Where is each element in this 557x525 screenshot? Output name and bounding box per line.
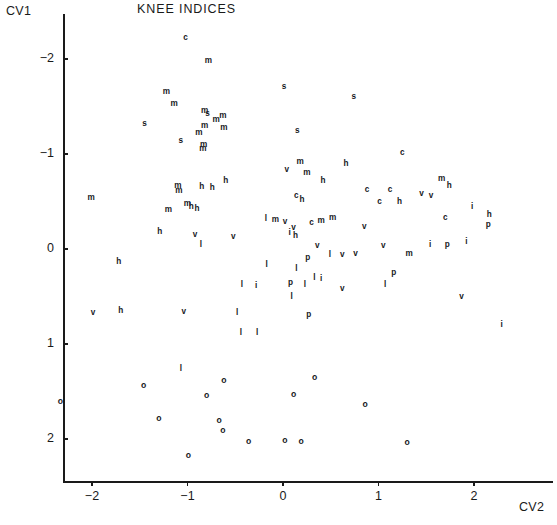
y-tick-mark	[63, 58, 68, 59]
data-point-p: p	[443, 241, 452, 249]
data-point-h: h	[485, 211, 494, 219]
data-point-m: m	[405, 250, 414, 258]
data-point-m: m	[87, 194, 96, 202]
data-point-o: o	[202, 391, 211, 399]
data-point-v: v	[282, 166, 291, 174]
data-point-c: c	[385, 186, 394, 194]
x-tick-mark	[378, 481, 379, 486]
data-point-v: v	[417, 190, 426, 198]
data-point-p: p	[303, 254, 312, 262]
data-point-i: i	[317, 275, 326, 283]
data-point-h: h	[155, 228, 164, 236]
data-point-s: s	[176, 137, 185, 145]
data-point-m: m	[328, 214, 337, 222]
x-tick-mark	[187, 481, 188, 486]
data-point-l: l	[381, 281, 390, 289]
data-point-l: l	[287, 293, 296, 301]
data-point-m: m	[162, 88, 171, 96]
data-point-o: o	[244, 437, 253, 445]
data-point-h: h	[291, 232, 300, 240]
data-point-v: v	[179, 308, 188, 316]
data-point-c: c	[441, 214, 450, 222]
x-tick-label: 2	[461, 489, 487, 503]
x-tick-mark	[91, 481, 92, 486]
data-point-c: c	[181, 34, 190, 42]
data-point-s: s	[140, 120, 149, 128]
x-tick-mark	[473, 481, 474, 486]
data-point-m: m	[198, 145, 207, 153]
data-point-m: m	[194, 129, 203, 137]
data-point-v: v	[457, 293, 466, 301]
data-point-h: h	[395, 198, 404, 206]
data-point-o: o	[139, 381, 148, 389]
data-point-v: v	[191, 231, 200, 239]
data-point-o: o	[361, 400, 370, 408]
data-point-h: h	[114, 258, 123, 266]
data-point-v: v	[338, 285, 347, 293]
data-point-h: h	[197, 183, 206, 191]
data-point-o: o	[184, 451, 193, 459]
data-point-v: v	[360, 223, 369, 231]
data-point-h: h	[221, 177, 230, 185]
data-point-o: o	[280, 436, 289, 444]
data-point-s: s	[293, 127, 302, 135]
data-point-l: l	[237, 281, 246, 289]
data-point-o: o	[215, 416, 224, 424]
data-point-h: h	[342, 160, 351, 168]
y-tick-label: 0	[28, 241, 54, 255]
y-tick-label: 2	[28, 431, 54, 445]
page-title: KNEE INDICES	[137, 2, 236, 16]
data-point-v: v	[379, 242, 388, 250]
y-tick-mark	[63, 248, 68, 249]
data-point-s: s	[279, 83, 288, 91]
data-point-c: c	[307, 219, 316, 227]
data-point-o: o	[154, 414, 163, 422]
data-point-o: o	[218, 426, 227, 434]
y-tick-mark	[63, 153, 68, 154]
data-point-v: v	[427, 192, 436, 200]
data-point-m: m	[204, 57, 213, 65]
data-point-h: h	[208, 184, 217, 192]
data-point-m: m	[271, 216, 280, 224]
data-point-l: l	[292, 265, 301, 273]
x-tick-mark	[282, 481, 283, 486]
data-point-h: h	[116, 307, 125, 315]
scatter-plot: KNEE INDICES CV1 CV2 −2−1012−2−1012 cmsm…	[0, 0, 557, 525]
data-point-h: h	[319, 177, 328, 185]
data-point-o: o	[219, 376, 228, 384]
data-point-p: p	[484, 221, 493, 229]
data-point-h: h	[298, 196, 307, 204]
data-point-m: m	[170, 100, 179, 108]
x-tick-label: 0	[270, 489, 296, 503]
y-tick-mark	[63, 438, 68, 439]
data-point-l: l	[196, 241, 205, 249]
data-point-o: o	[297, 437, 306, 445]
data-point-v: v	[313, 242, 322, 250]
data-point-p: p	[304, 311, 313, 319]
data-point-l: l	[236, 329, 245, 337]
y-tick-label: 1	[28, 336, 54, 350]
data-point-i: i	[426, 241, 435, 249]
data-point-l: l	[233, 309, 242, 317]
data-point-l: l	[253, 329, 262, 337]
data-point-c: c	[398, 149, 407, 157]
x-tick-label: −1	[175, 489, 201, 503]
data-point-v: v	[229, 233, 238, 241]
data-point-l: l	[262, 261, 271, 269]
y-tick-label: −1	[28, 146, 54, 160]
y-tick-mark	[63, 343, 68, 344]
data-point-h: h	[193, 205, 202, 213]
data-point-o: o	[56, 397, 65, 405]
data-point-v: v	[88, 309, 97, 317]
data-point-p: p	[286, 279, 295, 287]
data-point-m: m	[302, 169, 311, 177]
data-point-c: c	[363, 186, 372, 194]
data-point-i: i	[462, 238, 471, 246]
data-point-m: m	[219, 124, 228, 132]
data-point-i: i	[468, 203, 477, 211]
data-point-m: m	[164, 206, 173, 214]
data-point-o: o	[403, 438, 412, 446]
x-axis-line	[63, 481, 553, 483]
data-point-l: l	[176, 365, 185, 373]
data-point-v: v	[338, 251, 347, 259]
